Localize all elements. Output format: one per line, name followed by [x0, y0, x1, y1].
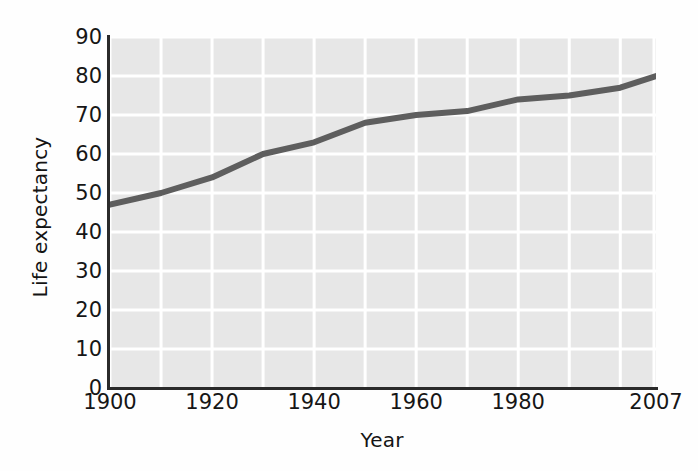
x-tick-label: 2007	[629, 392, 682, 413]
x-tick-label: 1980	[491, 392, 544, 413]
x-tick-label: 1920	[185, 392, 238, 413]
x-tick-label: 1940	[287, 392, 340, 413]
chart-figure: Life expectancy 0102030405060708090 1900…	[0, 0, 698, 471]
x-tick-label: 1960	[389, 392, 442, 413]
x-tick-label: 1900	[83, 392, 136, 413]
x-axis-title: Year	[108, 428, 656, 452]
x-axis-tick-labels: 190019201940196019802007	[0, 0, 698, 471]
